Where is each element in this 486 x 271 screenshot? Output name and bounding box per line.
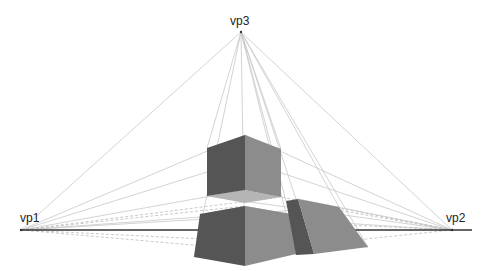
lower-box <box>194 206 296 266</box>
vp2-label: vp2 <box>446 212 465 224</box>
vp1-label: vp1 <box>20 212 39 224</box>
upper-box-right-face <box>245 135 281 197</box>
upper-box <box>207 135 281 203</box>
vp3-label: vp3 <box>230 15 249 27</box>
upper-box-left-face <box>207 135 245 196</box>
vp3-point <box>240 31 242 33</box>
right-box <box>286 199 368 255</box>
lower-box-right-face <box>245 206 296 266</box>
vp2-point <box>451 229 453 231</box>
perspective-diagram <box>0 0 486 271</box>
lower-box-left-face <box>194 206 245 266</box>
vp1-point <box>20 229 22 231</box>
